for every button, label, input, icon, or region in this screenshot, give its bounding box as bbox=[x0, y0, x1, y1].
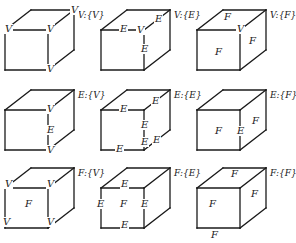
face-label: F bbox=[230, 168, 239, 179]
edge-label: E bbox=[154, 13, 163, 24]
face-label: F bbox=[24, 198, 33, 209]
edge-label: E bbox=[152, 134, 161, 145]
edge-label: E bbox=[120, 178, 129, 189]
face-label: F bbox=[214, 125, 223, 136]
cell-caption: E:{F} bbox=[269, 90, 296, 100]
cube-cell-e-v bbox=[5, 90, 74, 150]
cell-caption: F:{E} bbox=[173, 168, 201, 178]
cube-cell-f-e bbox=[101, 168, 170, 228]
cell-caption: F:{F} bbox=[269, 168, 296, 178]
face-label: F bbox=[210, 229, 219, 240]
face-label: F bbox=[250, 188, 259, 199]
edge-label: E bbox=[140, 119, 149, 130]
cell-caption: E:{E} bbox=[173, 90, 202, 100]
edge-label: E bbox=[119, 23, 128, 34]
edge-label: E bbox=[140, 43, 149, 54]
edge-label: E bbox=[119, 103, 128, 114]
edge-label: E bbox=[46, 124, 55, 135]
cube-cell-v-v bbox=[5, 10, 74, 70]
face-label: F bbox=[208, 198, 217, 209]
face-label: F bbox=[248, 35, 257, 46]
face-label: F bbox=[223, 11, 232, 22]
cell-caption: V:{V} bbox=[78, 10, 105, 20]
edge-label: E bbox=[115, 143, 124, 154]
edge-label: E bbox=[140, 136, 149, 147]
cube-cell-f-v bbox=[5, 168, 74, 228]
edge-label: E bbox=[236, 125, 245, 136]
cell-caption: V:{E} bbox=[174, 10, 201, 20]
edge-label: E bbox=[151, 95, 160, 106]
face-label: F bbox=[251, 115, 260, 126]
incidence-cube-grid: V:{V}VVVVV:{E}EVEEV:{F}FVFFE:{V}VEVE:{E}… bbox=[0, 0, 296, 243]
face-label: F bbox=[214, 46, 223, 57]
cell-caption: E:{V} bbox=[77, 90, 106, 100]
cell-caption: V:{F} bbox=[270, 10, 296, 20]
edge-label: E bbox=[120, 219, 129, 230]
edge-label: E bbox=[140, 198, 149, 209]
cell-caption: F:{V} bbox=[77, 168, 105, 178]
face-label: F bbox=[119, 198, 128, 209]
edge-label: E bbox=[96, 198, 105, 209]
